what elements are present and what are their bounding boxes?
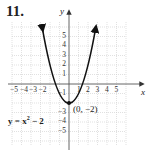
svg-text:5: 5 [115, 85, 119, 94]
x-axis-label: x [140, 87, 145, 97]
graph: x y −5−4−3−2 12345 54321 −1−3−4−5 (0, −2… [0, 0, 148, 152]
svg-text:4: 4 [105, 85, 109, 94]
svg-text:−3: −3 [29, 85, 37, 94]
svg-text:−5: −5 [58, 126, 66, 135]
svg-text:1: 1 [62, 69, 66, 78]
svg-text:2: 2 [86, 85, 90, 94]
svg-text:2: 2 [62, 59, 66, 68]
svg-text:5: 5 [62, 31, 66, 40]
y-axis-label: y [59, 6, 64, 16]
svg-text:4: 4 [62, 40, 66, 49]
svg-text:−5: −5 [10, 85, 18, 94]
equation-label: y = x2 − 2 [8, 115, 44, 126]
svg-text:−2: −2 [39, 85, 47, 94]
svg-text:−4: −4 [58, 116, 66, 125]
svg-text:−4: −4 [20, 85, 28, 94]
svg-text:−3: −3 [58, 107, 66, 116]
vertex-point [67, 101, 71, 105]
svg-text:3: 3 [96, 85, 100, 94]
svg-text:3: 3 [62, 50, 66, 59]
vertex-label: (0, −2) [73, 104, 98, 114]
